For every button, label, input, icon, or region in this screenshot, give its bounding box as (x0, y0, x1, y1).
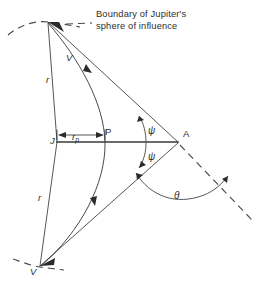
label-theta: θ (174, 190, 180, 202)
caption-line-1: Boundary of Jupiter's (96, 9, 186, 20)
incoming-asymptote-line (48, 22, 178, 142)
label-psi-upper: ψ (148, 125, 155, 137)
label-periapsis: P (105, 126, 111, 137)
caption-line-2: sphere of influence (96, 21, 177, 32)
outgoing-asymptote-line (40, 143, 178, 266)
label-velocity-out: V (30, 266, 36, 277)
sphere-of-influence-arc-bottom (13, 259, 64, 270)
label-periapsis-radius-sub: p (75, 136, 79, 143)
radius-line-upper (48, 23, 57, 142)
figure-root: Boundary of Jupiter's sphere of influenc… (0, 0, 265, 291)
trajectory-arrow-upper (83, 64, 92, 73)
orbital-flyby-diagram (0, 0, 265, 291)
label-radius-lower: r (38, 192, 41, 203)
psi-arc-upper-arrowhead (137, 116, 144, 122)
label-velocity-in: V (66, 52, 72, 63)
caption-leader-line (66, 23, 92, 24)
label-radius-upper: r (46, 74, 49, 85)
label-apex: A (183, 128, 189, 139)
theta-arc (136, 173, 228, 199)
radius-line-lower (40, 142, 57, 266)
theta-arc-arrowhead-left (136, 173, 143, 180)
label-jupiter-center: J (50, 135, 55, 146)
label-psi-lower: ψ (148, 151, 155, 163)
incoming-velocity-arrowhead (48, 22, 64, 32)
rp-arrow-right (96, 132, 104, 138)
label-periapsis-radius: rp (72, 126, 79, 145)
rp-arrow-left (58, 132, 66, 138)
asymptote-dashed-line (180, 145, 253, 221)
